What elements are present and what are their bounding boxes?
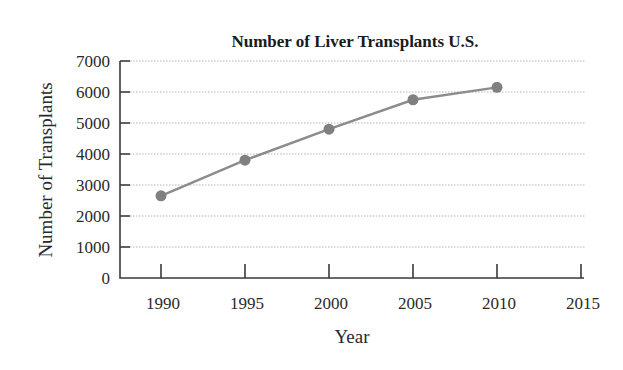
data-point-marker — [324, 124, 335, 135]
axes — [120, 61, 584, 278]
data-point-marker — [240, 155, 251, 166]
chart-title: Number of Liver Transplants U.S. — [231, 32, 478, 51]
x-axis-label: Year — [334, 326, 370, 347]
x-tick-label: 1995 — [230, 294, 264, 313]
y-tick-label: 4000 — [76, 145, 110, 164]
x-tick-label: 2000 — [314, 294, 348, 313]
y-axis-label: Number of Transplants — [35, 82, 56, 257]
data-point-marker — [492, 82, 503, 93]
gridlines — [130, 61, 586, 247]
y-axis-ticks: 01000200030004000500060007000 — [76, 52, 130, 288]
y-tick-label: 2000 — [76, 207, 110, 226]
line-chart: Number of Liver Transplants U.S. 0100020… — [0, 0, 623, 370]
y-tick-label: 0 — [102, 269, 111, 288]
y-tick-label: 1000 — [76, 238, 110, 257]
x-tick-label: 2005 — [398, 294, 432, 313]
data-point-marker — [408, 94, 419, 105]
x-tick-label: 2015 — [566, 294, 600, 313]
y-tick-label: 6000 — [76, 83, 110, 102]
data-point-marker — [156, 190, 167, 201]
x-tick-label: 2010 — [482, 294, 516, 313]
y-tick-label: 3000 — [76, 176, 110, 195]
x-tick-label: 1990 — [146, 294, 180, 313]
data-series — [156, 82, 503, 202]
y-tick-label: 5000 — [76, 114, 110, 133]
series-line — [161, 87, 497, 196]
x-axis-ticks: 199019952000200520102015 — [146, 264, 600, 313]
y-tick-label: 7000 — [76, 52, 110, 71]
